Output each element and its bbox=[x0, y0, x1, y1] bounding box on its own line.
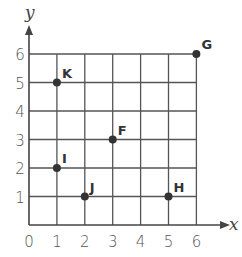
point-label-K: K bbox=[62, 66, 73, 81]
point-F bbox=[109, 136, 117, 144]
x-tick-label: 5 bbox=[164, 233, 174, 251]
point-label-G: G bbox=[201, 37, 212, 52]
point-H bbox=[165, 193, 173, 201]
x-tick-label: 2 bbox=[80, 233, 90, 251]
point-label-I: I bbox=[62, 151, 67, 166]
point-label-F: F bbox=[118, 123, 127, 138]
y-tick-label: 2 bbox=[15, 160, 25, 178]
y-tick-label: 6 bbox=[15, 46, 25, 64]
x-tick-label: 1 bbox=[52, 233, 62, 251]
x-tick-label: 4 bbox=[136, 233, 146, 251]
x-tick-label: 6 bbox=[192, 233, 202, 251]
point-K bbox=[53, 79, 61, 87]
point-J bbox=[81, 193, 89, 201]
coordinate-grid: x y 0123456123456 KGFIJH bbox=[0, 0, 242, 257]
x-tick-label: 3 bbox=[108, 233, 118, 251]
tick-labels: 0123456123456 bbox=[15, 46, 201, 251]
y-tick-label: 5 bbox=[15, 75, 25, 93]
y-tick-label: 3 bbox=[15, 132, 25, 150]
x-axis-label: x bbox=[229, 214, 239, 234]
y-tick-label: 4 bbox=[15, 103, 25, 121]
data-points: KGFIJH bbox=[53, 37, 212, 201]
point-G bbox=[192, 50, 200, 58]
y-axis-arrow-icon bbox=[25, 25, 33, 35]
point-label-H: H bbox=[174, 180, 185, 195]
y-axis-label: y bbox=[24, 2, 35, 22]
y-tick-label: 1 bbox=[15, 189, 25, 207]
point-label-J: J bbox=[89, 180, 95, 195]
point-I bbox=[53, 164, 61, 172]
x-tick-label: 0 bbox=[24, 233, 34, 251]
